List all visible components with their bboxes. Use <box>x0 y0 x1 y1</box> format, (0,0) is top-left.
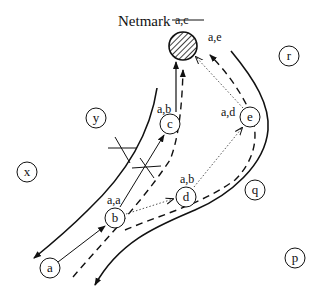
node-q-label: q <box>252 182 259 197</box>
node-p-label: p <box>292 250 299 265</box>
edge-b-c <box>120 135 164 207</box>
node-c-path-label: a,b <box>157 102 171 116</box>
cross-mark-lower <box>132 158 161 178</box>
node-b-label: b <box>112 210 119 225</box>
node-r-label: r <box>287 48 292 63</box>
edge-d-e <box>194 128 242 187</box>
node-c-label: c <box>167 116 173 131</box>
node-a-label: a <box>47 260 53 275</box>
diagram-svg: Netmark a,c a,e a b c d e p q r x y a,a … <box>0 0 319 297</box>
edge-e-netmark <box>196 57 243 108</box>
netmark-label: a,e <box>208 30 222 44</box>
node-y-label: y <box>93 110 100 125</box>
netmark-title: Netmark <box>118 13 171 29</box>
netmark-node <box>169 32 197 60</box>
cross-mark-upper <box>108 137 137 163</box>
node-e-label: e <box>247 109 253 124</box>
node-x-label: x <box>24 164 31 179</box>
right-boundary-curve <box>95 51 268 285</box>
node-e-path-label: a,d <box>221 105 235 119</box>
edge-b-d <box>126 199 173 214</box>
node-d-label: d <box>183 189 190 204</box>
node-b-path-label: a,a <box>107 193 121 207</box>
diagram-canvas: Netmark a,c a,e a b c d e p q r x y a,a … <box>0 0 319 297</box>
node-d-path-label: a,b <box>180 172 194 186</box>
